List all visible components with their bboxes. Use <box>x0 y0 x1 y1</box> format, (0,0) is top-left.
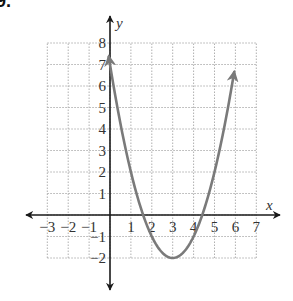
x-tick-label: 5 <box>211 219 219 235</box>
y-tick-label: 7 <box>99 57 107 73</box>
x-tick-label: −2 <box>60 219 76 235</box>
y-tick-label: 3 <box>99 143 107 159</box>
y-tick-label: 2 <box>99 164 107 180</box>
y-tick-label: −1 <box>90 229 106 245</box>
x-tick-label: 7 <box>253 219 261 235</box>
y-tick-label: 6 <box>99 78 107 94</box>
parabola-graph: −3−2−11234567−2−112345678 x y <box>0 0 293 301</box>
y-tick-label: −2 <box>90 250 106 266</box>
x-tick-label: 3 <box>169 219 177 235</box>
axes <box>26 16 280 290</box>
x-tick-label: −3 <box>39 219 55 235</box>
y-tick-label: 5 <box>99 100 107 116</box>
y-tick-label: 4 <box>99 121 107 137</box>
y-tick-label: 1 <box>99 186 107 202</box>
y-tick-label: 8 <box>99 35 107 51</box>
x-axis-label: x <box>265 197 273 213</box>
y-axis-label: y <box>114 15 123 31</box>
x-tick-label: 6 <box>232 219 240 235</box>
x-tick-label: 1 <box>127 219 135 235</box>
